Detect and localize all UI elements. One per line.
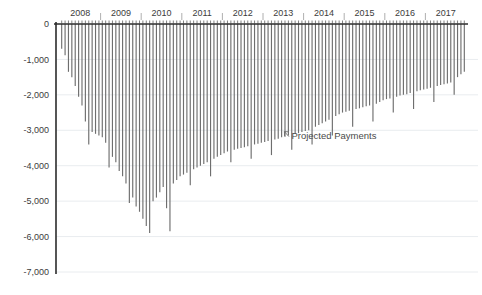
x-tick-label-2012: 2012 [233, 8, 253, 18]
bars-group [62, 24, 465, 233]
y-tick-label--3,000: -3,000 [23, 125, 49, 135]
y-tick-label--6,000: -6,000 [23, 232, 49, 242]
x-tick-label-2008: 2008 [70, 8, 90, 18]
y-tick-label--1,000: -1,000 [23, 55, 49, 65]
x-tick-label-2010: 2010 [151, 8, 171, 18]
y-tick-label--7,000: -7,000 [23, 267, 49, 277]
annotation-label-projected-payments: Projected Payments [291, 130, 376, 141]
x-tick-label-2013: 2013 [273, 8, 293, 18]
y-tick-label-0: 0 [44, 19, 49, 29]
x-tick-label-2009: 2009 [111, 8, 131, 18]
chart-container: 2008200920102011201220132014201520162017… [0, 0, 482, 295]
y-tick-label--4,000: -4,000 [23, 161, 49, 171]
payments-bar-chart: 2008200920102011201220132014201520162017… [0, 0, 482, 295]
x-tick-label-2015: 2015 [354, 8, 374, 18]
x-tick-label-2016: 2016 [395, 8, 415, 18]
y-tick-label--5,000: -5,000 [23, 196, 49, 206]
x-tick-label-2017: 2017 [436, 8, 456, 18]
x-tick-label-2011: 2011 [192, 8, 211, 18]
y-tick-label--2,000: -2,000 [23, 90, 49, 100]
x-tick-label-2014: 2014 [314, 8, 334, 18]
